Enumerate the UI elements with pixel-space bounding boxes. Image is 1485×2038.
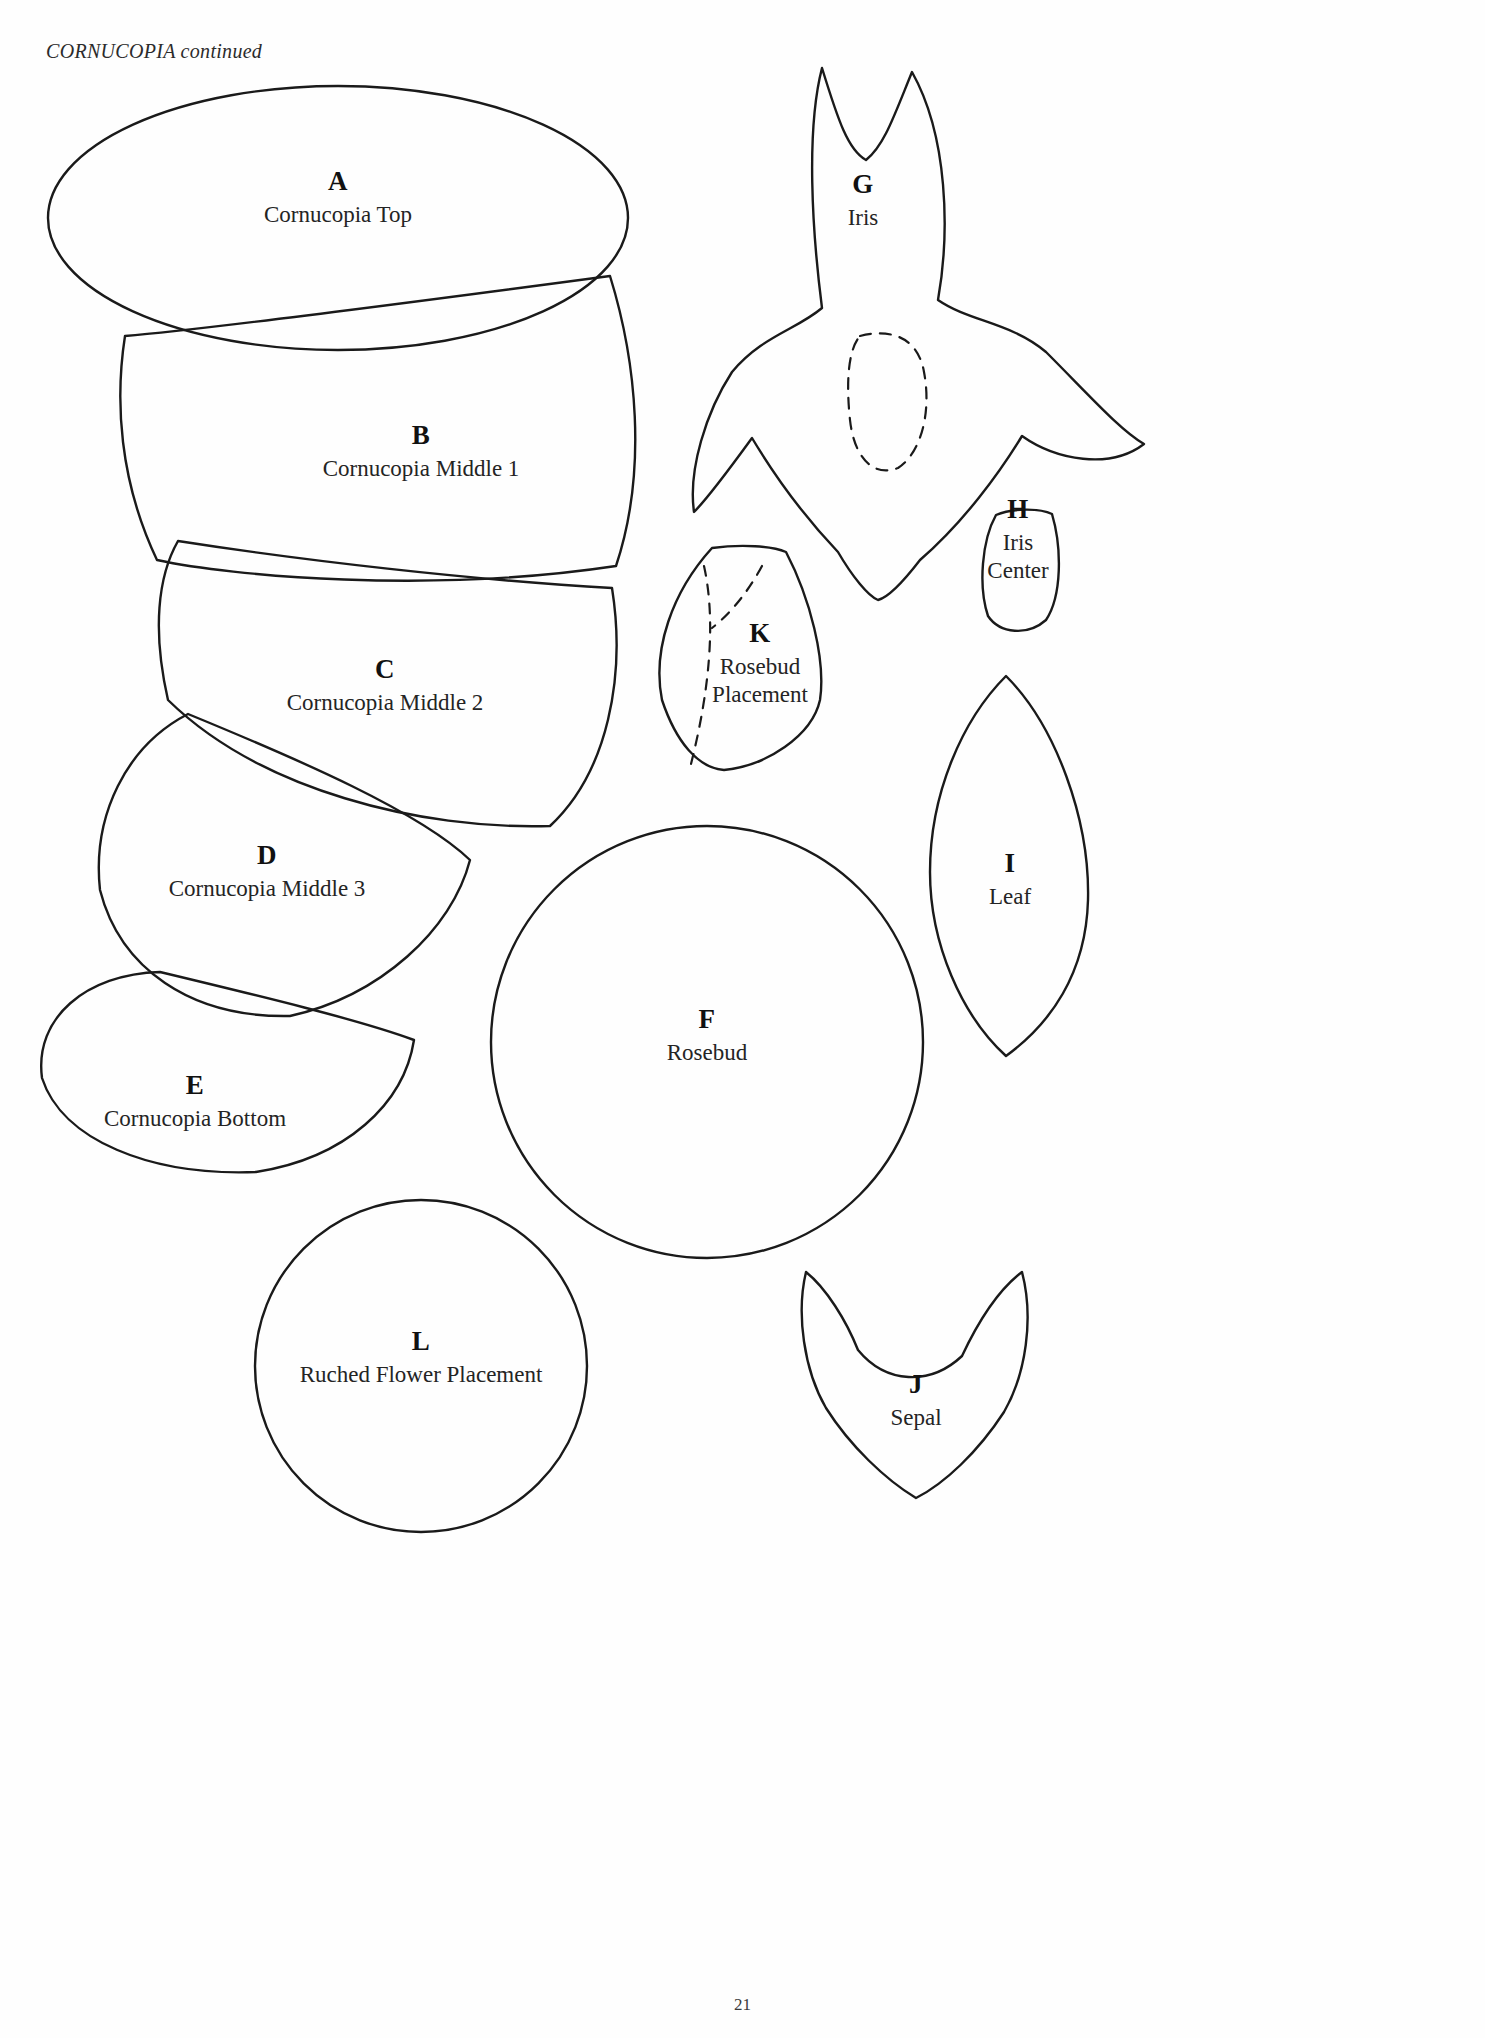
piece-label-j: J Sepal bbox=[890, 1370, 941, 1432]
piece-caption-l: Ruched Flower Placement bbox=[300, 1361, 543, 1389]
piece-caption-f: Rosebud bbox=[667, 1039, 748, 1067]
piece-letter-i: I bbox=[989, 849, 1031, 877]
pattern-sheet: CORNUCOPIA continued bbox=[0, 0, 1485, 2038]
piece-caption-h-line2: Center bbox=[987, 557, 1048, 585]
piece-caption-a: Cornucopia Top bbox=[264, 201, 412, 229]
piece-letter-d: D bbox=[169, 841, 366, 869]
piece-letter-j: J bbox=[890, 1370, 941, 1398]
piece-letter-h: H bbox=[987, 495, 1048, 523]
piece-label-l: L Ruched Flower Placement bbox=[300, 1327, 543, 1389]
piece-caption-b: Cornucopia Middle 1 bbox=[323, 455, 520, 483]
piece-label-f: F Rosebud bbox=[667, 1005, 748, 1067]
piece-letter-f: F bbox=[667, 1005, 748, 1033]
piece-label-a: A Cornucopia Top bbox=[264, 167, 412, 229]
piece-label-b: B Cornucopia Middle 1 bbox=[323, 421, 520, 483]
piece-label-g: G Iris bbox=[848, 170, 879, 232]
piece-letter-l: L bbox=[300, 1327, 543, 1355]
piece-caption-k-line2: Placement bbox=[712, 681, 808, 709]
piece-caption-g: Iris bbox=[848, 204, 879, 232]
piece-caption-e: Cornucopia Bottom bbox=[104, 1105, 286, 1133]
page-number: 21 bbox=[0, 1995, 1485, 2015]
piece-caption-h-line1: Iris bbox=[987, 529, 1048, 557]
piece-caption-i: Leaf bbox=[989, 883, 1031, 911]
shape-g-iris-dashed-marking bbox=[848, 333, 926, 470]
piece-caption-j: Sepal bbox=[890, 1404, 941, 1432]
shape-k-dashed-marking-left bbox=[690, 566, 710, 768]
piece-letter-k: K bbox=[712, 619, 808, 647]
piece-caption-k-line1: Rosebud bbox=[712, 653, 808, 681]
piece-label-d: D Cornucopia Middle 3 bbox=[169, 841, 366, 903]
piece-letter-a: A bbox=[264, 167, 412, 195]
piece-label-c: C Cornucopia Middle 2 bbox=[287, 655, 484, 717]
piece-label-k: K Rosebud Placement bbox=[712, 619, 808, 709]
piece-label-i: I Leaf bbox=[989, 849, 1031, 911]
piece-letter-b: B bbox=[323, 421, 520, 449]
piece-caption-d: Cornucopia Middle 3 bbox=[169, 875, 366, 903]
piece-label-h: H Iris Center bbox=[987, 495, 1048, 585]
piece-letter-e: E bbox=[104, 1071, 286, 1099]
shape-g-iris bbox=[693, 68, 1144, 600]
piece-letter-c: C bbox=[287, 655, 484, 683]
piece-caption-c: Cornucopia Middle 2 bbox=[287, 689, 484, 717]
piece-letter-g: G bbox=[848, 170, 879, 198]
piece-label-e: E Cornucopia Bottom bbox=[104, 1071, 286, 1133]
